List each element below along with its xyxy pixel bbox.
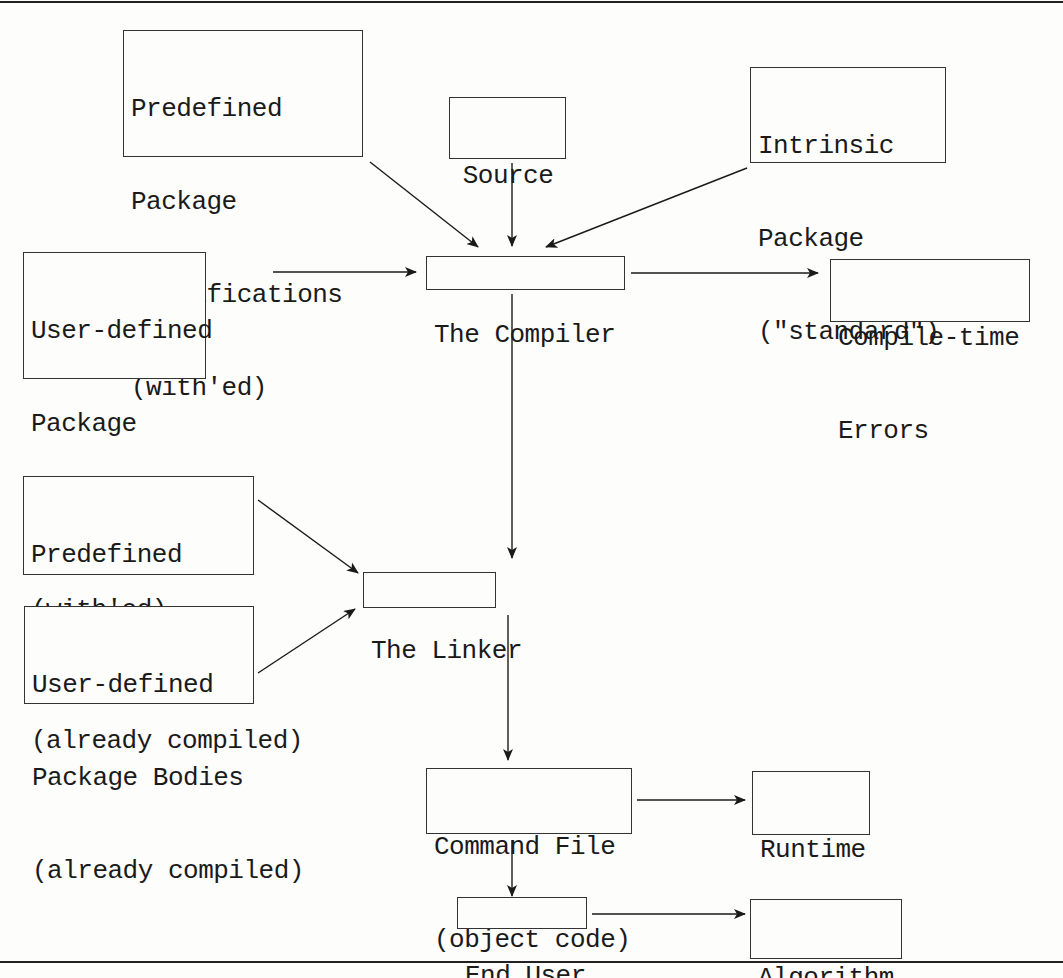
node-the-linker: The Linker [363, 572, 496, 608]
node-predefined-package-bodies: Predefined Package Bodies (already compi… [23, 476, 254, 575]
edge-user-bodies-to-linker [258, 609, 355, 673]
edge-predef-bodies-to-linker [258, 500, 358, 573]
node-command-file: Command File (object code) [426, 768, 632, 834]
node-predefined-package-specifications: Predefined Package Specifications (with'… [123, 30, 363, 157]
node-user-defined-package-bodies: User-defined Package Bodies (already com… [24, 606, 254, 704]
node-algorithm-errors: Algorithm Errors [750, 899, 902, 959]
edge-intrinsic-to-compiler [546, 168, 747, 247]
node-intrinsic-package: Intrinsic Package ("standard") [750, 67, 946, 163]
node-runtime-errors: Runtime Errors [752, 771, 870, 835]
node-compile-time-errors: Compile-time Errors [830, 259, 1030, 322]
node-source-code: Source Code [449, 97, 566, 159]
node-the-compiler: The Compiler [426, 256, 625, 290]
node-user-defined-package-specifications: User-defined Package Specifications (wit… [23, 252, 206, 379]
node-end-user: End User [457, 897, 587, 929]
